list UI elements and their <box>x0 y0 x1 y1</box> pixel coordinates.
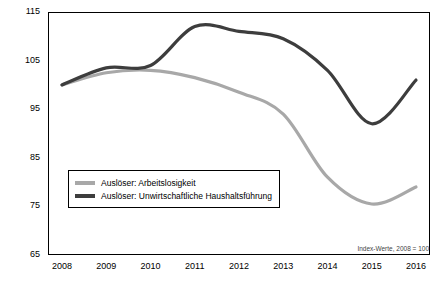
y-axis-tick-label: 65 <box>0 249 40 259</box>
y-axis-tick-label: 115 <box>0 6 40 16</box>
y-axis-tick-label: 105 <box>0 55 40 65</box>
x-axis-tick-label: 2014 <box>306 261 350 271</box>
x-axis-tick-label: 2012 <box>217 261 261 271</box>
chart-footnote: Index-Werte, 2008 = 100 <box>357 245 429 252</box>
legend-swatch-icon <box>75 181 95 185</box>
legend: Auslöser: Arbeitslosigkeit Auslöser: Unw… <box>68 170 280 208</box>
y-axis-tick-label: 95 <box>0 103 40 113</box>
legend-swatch-icon <box>75 194 95 198</box>
y-axis-tick-label: 75 <box>0 200 40 210</box>
x-axis-tick-label: 2013 <box>261 261 305 271</box>
x-axis-tick-label: 2008 <box>40 261 84 271</box>
x-axis-tick-label: 2015 <box>350 261 394 271</box>
legend-item-label: Auslöser: Unwirtschaftliche Haushaltsfüh… <box>101 191 272 201</box>
legend-item-arbeitslosigkeit: Auslöser: Arbeitslosigkeit <box>75 176 272 189</box>
chart-container: 11510595857565 2008200920102011201220132… <box>0 0 445 294</box>
legend-item-label: Auslöser: Arbeitslosigkeit <box>101 178 196 188</box>
x-axis-tick-label: 2016 <box>394 261 438 271</box>
y-axis-tick-label: 85 <box>0 152 40 162</box>
x-axis-tick-label: 2011 <box>173 261 217 271</box>
series-line-2 <box>62 25 416 124</box>
legend-item-haushaltsfuehrung: Auslöser: Unwirtschaftliche Haushaltsfüh… <box>75 189 272 202</box>
x-axis-tick-label: 2009 <box>84 261 128 271</box>
x-axis-tick-label: 2010 <box>129 261 173 271</box>
